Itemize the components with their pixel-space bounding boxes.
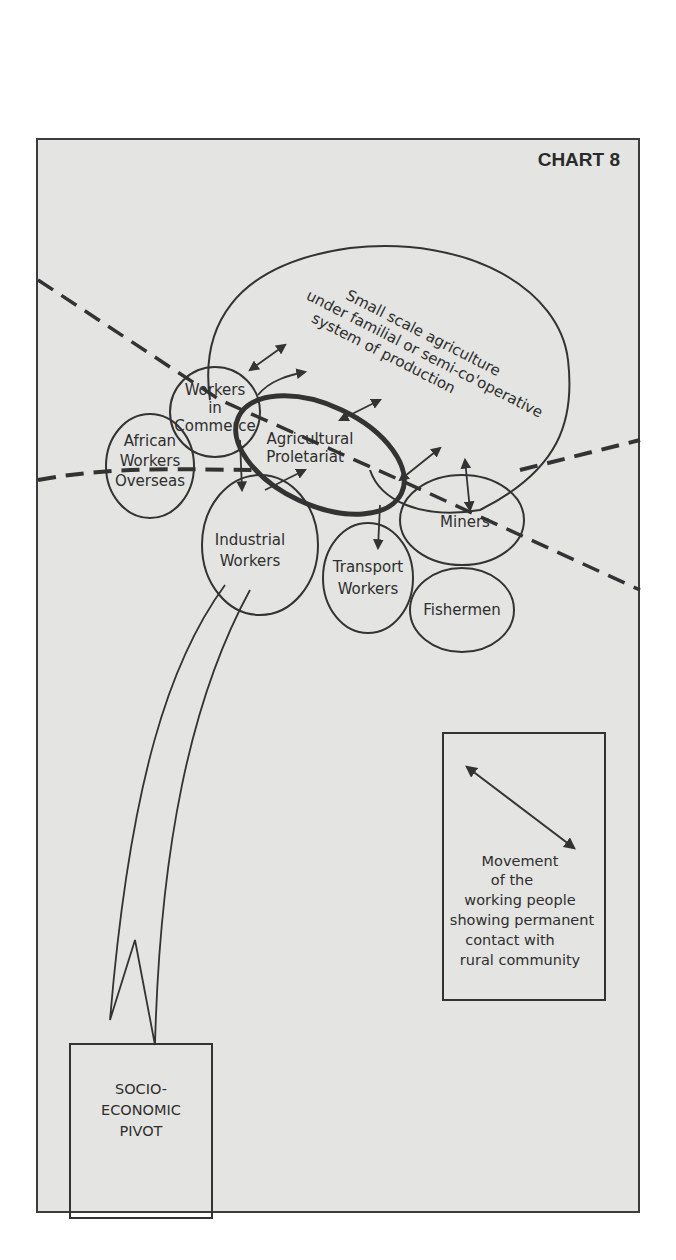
svg-text:rural community: rural community <box>460 952 581 968</box>
transport-workers-ellipse <box>323 523 413 633</box>
industrial-workers-label: Industrial <box>215 531 285 549</box>
pivot-label: SOCIO- <box>115 1081 167 1097</box>
svg-text:showing permanent: showing permanent <box>450 912 595 928</box>
dashed-boundary-right <box>520 440 640 470</box>
fishermen-label: Fishermen <box>423 601 501 619</box>
svg-text:Overseas: Overseas <box>115 472 185 490</box>
svg-text:in: in <box>208 399 222 417</box>
legend-double-arrow-icon <box>467 767 574 848</box>
svg-text:contact with: contact with <box>465 932 555 948</box>
workers-in-commerce-label: Workers <box>185 381 246 399</box>
svg-text:PIVOT: PIVOT <box>120 1123 163 1139</box>
svg-text:under familial or semi-co'oper: under familial or semi-co'operative <box>304 286 546 421</box>
diagram-canvas: CHART 8 Small scale agriculture under fa… <box>0 0 676 1260</box>
african-workers-overseas-label: African <box>124 432 176 450</box>
svg-text:Workers: Workers <box>338 580 399 598</box>
svg-text:Proletariat: Proletariat <box>266 448 344 466</box>
chart-title: CHART 8 <box>538 149 620 170</box>
pivot-arrow <box>110 585 250 1045</box>
svg-text:ECONOMIC: ECONOMIC <box>101 1102 181 1118</box>
small-scale-agriculture-label: Small scale agriculture under familial o… <box>295 270 554 437</box>
svg-text:Workers: Workers <box>220 552 281 570</box>
small-scale-agriculture-ellipse <box>208 246 569 513</box>
legend-label: Movement <box>482 853 559 869</box>
svg-text:Commerce: Commerce <box>174 417 255 435</box>
svg-text:working people: working people <box>464 892 575 908</box>
agricultural-proletariat-label: Agricultural <box>267 430 354 448</box>
svg-text:of the: of the <box>491 872 533 888</box>
svg-text:Workers: Workers <box>120 452 181 470</box>
miners-label: Miners <box>440 513 490 531</box>
transport-workers-label: Transport <box>332 558 404 576</box>
